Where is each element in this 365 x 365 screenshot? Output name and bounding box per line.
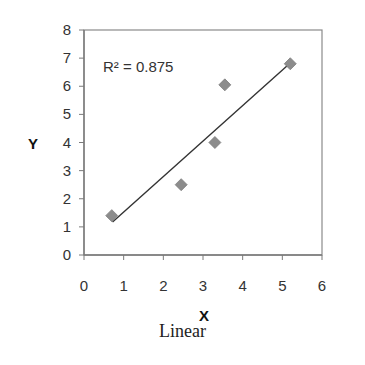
y-tick-label: 4 [63,134,71,151]
y-tick-label: 8 [63,21,71,38]
x-tick-label: 6 [318,277,326,294]
y-tick-label: 1 [63,218,71,235]
y-tick-label: 2 [63,190,71,207]
chart-caption: Linear [0,321,365,342]
y-tick-label: 6 [63,77,71,94]
y-tick-label: 7 [63,49,71,66]
x-tick-label: 5 [278,277,286,294]
y-axis-title: Y [28,135,38,152]
y-axis: 012345678 [63,21,84,263]
x-axis: 0123456 [80,255,326,294]
x-tick-label: 0 [80,277,88,294]
x-tick-label: 3 [199,277,207,294]
y-tick-label: 5 [63,105,71,122]
chart-canvas: 012345678 0123456 R² = 0.875 Y X [0,0,365,365]
r-squared-annotation: R² = 0.875 [103,58,173,75]
scatter-chart: 012345678 0123456 R² = 0.875 Y X Linear [0,0,365,365]
x-tick-label: 2 [159,277,167,294]
y-tick-label: 3 [63,162,71,179]
x-tick-label: 1 [119,277,127,294]
x-tick-label: 4 [238,277,246,294]
y-tick-label: 0 [63,246,71,263]
